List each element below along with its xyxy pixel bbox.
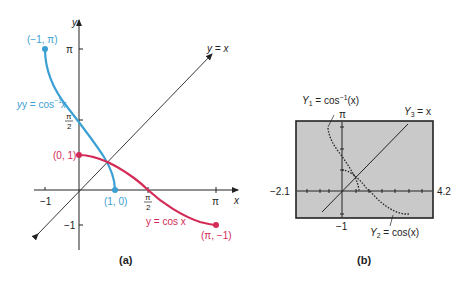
graph-a: y x −1 π π 2 π π 2 −1 (−1, π) (1, 0) (0,… xyxy=(16,17,240,266)
window-xmin: −2.1 xyxy=(270,186,290,197)
x-axis-label: x xyxy=(233,195,240,206)
arccos-label: yy = cos xyxy=(16,99,54,110)
window-ymax: π xyxy=(339,109,346,120)
cos-start-label: (0, 1) xyxy=(53,150,76,161)
caption-a: (a) xyxy=(119,254,133,266)
y-tick-pi-half-den: 2 xyxy=(67,122,72,131)
axis-ticks xyxy=(45,49,216,225)
identity-line xyxy=(38,54,212,234)
caption-b: (b) xyxy=(357,254,371,266)
cos-end-point xyxy=(213,222,219,228)
x-tick-pi-half-den: 2 xyxy=(146,203,151,212)
cos-label: y = cos x xyxy=(146,216,186,227)
y3-label: Y3 = x xyxy=(404,106,431,118)
x-tick-pi-half-num: π xyxy=(145,193,151,202)
calculator-screen xyxy=(296,121,433,218)
y-axis-label: y xyxy=(71,17,78,28)
arccos-end-label: (1, 0) xyxy=(104,196,127,207)
identity-label: y = x xyxy=(206,43,229,54)
x-tick-neg1: −1 xyxy=(40,196,52,207)
window-xmax: 4.2 xyxy=(437,186,451,197)
arccos-start-label: (−1, π) xyxy=(27,34,58,45)
figure: y x −1 π π 2 π π 2 −1 (−1, π) (1, 0) (0,… xyxy=(0,0,464,282)
x-tick-pi: π xyxy=(212,196,219,207)
window-ymin: −1 xyxy=(336,221,348,232)
y2-label: Y2 = cos(x) xyxy=(370,227,419,239)
graph-b: Y1 = cos−1(x) Y3 = x Y2 = cos(x) π −1 −2… xyxy=(270,94,451,266)
cos-end-label: (π, −1) xyxy=(201,230,232,241)
y-tick-pi-half-num: π xyxy=(66,112,72,121)
y1-label: Y1 = cos−1(x) xyxy=(302,94,359,107)
arccos-end-point xyxy=(112,187,118,193)
y-tick-neg1: −1 xyxy=(64,220,76,231)
arccos-label-x: x xyxy=(60,99,67,110)
arccos-start-point xyxy=(42,46,48,52)
y-tick-pi: π xyxy=(66,44,73,55)
cos-start-point xyxy=(76,152,82,158)
